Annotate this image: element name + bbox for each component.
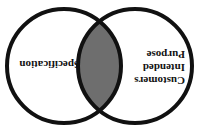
label-specification: Specification [20,59,81,71]
label-customers-line3: Purpose [146,49,185,61]
label-customers-line1: Customers [134,75,185,87]
label-customers-line2: Intended [143,62,185,74]
venn-diagram: Customers Intended Purpose Specification [0,0,199,132]
venn-svg: Customers Intended Purpose Specification [0,0,199,132]
